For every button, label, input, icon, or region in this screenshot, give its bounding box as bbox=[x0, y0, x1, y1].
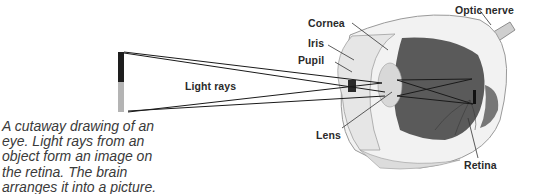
caption-line: the retina. The brain bbox=[2, 165, 227, 180]
label-optic-nerve: Optic nerve bbox=[455, 4, 514, 16]
label-light-rays: Light rays bbox=[185, 80, 236, 92]
label-iris: Iris bbox=[308, 37, 324, 49]
object-top-dark bbox=[118, 52, 124, 82]
eye-illustration bbox=[338, 15, 515, 169]
label-pupil: Pupil bbox=[298, 54, 324, 66]
caption-line: eye. Light rays from an bbox=[2, 134, 227, 149]
caption-line: A cutaway drawing of an bbox=[2, 119, 227, 134]
caption: A cutaway drawing of an eye. Light rays … bbox=[2, 119, 227, 194]
label-retina: Retina bbox=[464, 159, 497, 171]
caption-line: arranges it into a picture. bbox=[2, 180, 227, 194]
label-lens: Lens bbox=[316, 129, 341, 141]
caption-line: object form an image on bbox=[2, 149, 227, 164]
object-bottom-light bbox=[118, 82, 124, 112]
label-cornea: Cornea bbox=[308, 17, 345, 29]
